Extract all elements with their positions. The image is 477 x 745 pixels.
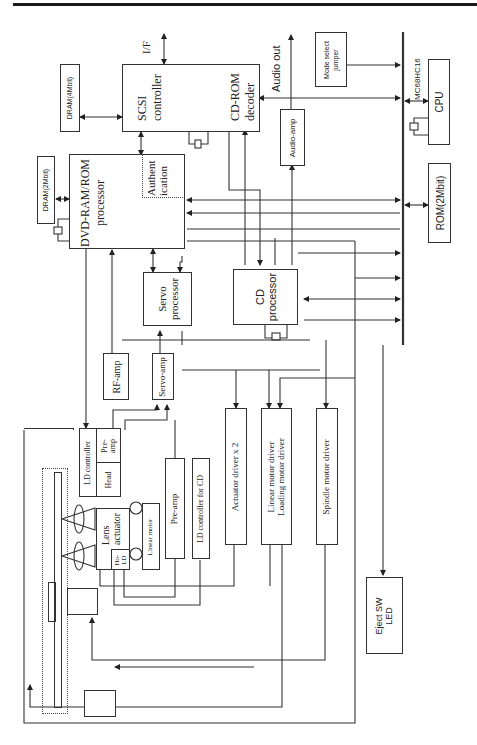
dvd-processor-label: DVD-RAM/ROM <box>78 159 93 247</box>
holo-ld: Ho- LD <box>111 549 130 570</box>
ld-controller: LD controller <box>79 428 97 497</box>
servo-amp: Servo-amp <box>152 353 174 400</box>
head-pre-amp: Pre- amp <box>96 428 121 463</box>
linear-motor: Linear motor <box>142 503 160 570</box>
actuator-driver: Actuator driver x 2 <box>225 408 247 545</box>
pre-amp: Pre-amp <box>165 458 185 559</box>
rf-amp: RF-amp <box>103 353 129 400</box>
linear-loading-motor-driver: Linear motor driver Loading motor driver <box>261 408 292 545</box>
authentication-block: Authentication <box>142 154 185 198</box>
dvd-ram-rom-processor: DVD-RAM/ROMprocessor Authentication <box>69 154 185 249</box>
eject-sw-led: Eject SW LED <box>366 577 403 654</box>
dram2-links <box>0 0 477 745</box>
lens-actuator: Lensactuator Ho- LD <box>96 508 130 570</box>
spindle-motor-driver: Spindle motor driver <box>316 408 338 545</box>
ld-controller-for-cd: LD controller for CD <box>192 458 210 559</box>
head: Head <box>96 462 121 497</box>
cd-processor: CD processor <box>233 269 298 325</box>
servo-processor: Servo processor <box>143 272 192 326</box>
